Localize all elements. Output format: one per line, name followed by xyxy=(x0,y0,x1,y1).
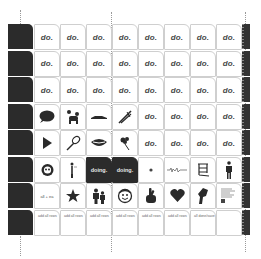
board-cell-empty[interactable] xyxy=(216,210,242,236)
row-tab[interactable] xyxy=(8,183,33,208)
panda-icon xyxy=(40,162,55,177)
cell-label: do. xyxy=(145,33,158,42)
board-cell[interactable]: do. xyxy=(86,51,112,77)
board-cell[interactable] xyxy=(190,183,216,209)
board-cell[interactable] xyxy=(138,183,164,209)
cell-label: do. xyxy=(171,59,184,68)
row-tab[interactable] xyxy=(8,157,33,182)
board-cell[interactable]: do. xyxy=(216,77,242,103)
board-cell[interactable]: do. xyxy=(216,130,242,156)
board-cell[interactable] xyxy=(60,104,86,130)
board-cell[interactable]: do. xyxy=(34,77,60,103)
board-cell[interactable] xyxy=(60,157,86,183)
board-cell[interactable]: add all rows xyxy=(86,210,112,236)
cell-label: do. xyxy=(223,112,236,121)
board-cell[interactable] xyxy=(138,157,164,183)
board-cell[interactable]: do. xyxy=(190,130,216,156)
cell-label-doing: doing. xyxy=(91,167,108,173)
board-cell[interactable] xyxy=(164,183,190,209)
board-cell[interactable]: do. xyxy=(190,51,216,77)
cell-label: do. xyxy=(197,139,210,148)
bouquet-icon xyxy=(117,135,133,151)
board-cell[interactable]: all + ea xyxy=(34,183,60,209)
cell-label: do. xyxy=(171,33,184,42)
cell-caption: add all rows xyxy=(90,214,109,218)
board-cell[interactable] xyxy=(190,157,216,183)
whisk-icon xyxy=(65,135,81,151)
play-icon xyxy=(42,137,52,149)
board-cell[interactable]: doing. xyxy=(112,157,138,183)
board-cell[interactable]: do. xyxy=(138,77,164,103)
board-cell[interactable]: do. xyxy=(138,51,164,77)
board-cell[interactable]: do. xyxy=(190,24,216,50)
board-cell[interactable] xyxy=(60,183,86,209)
cell-label: do. xyxy=(145,112,158,121)
board-cell[interactable]: do. xyxy=(138,104,164,130)
cell-label: do. xyxy=(41,33,54,42)
cell-label: do. xyxy=(67,86,80,95)
board-cell[interactable]: do. xyxy=(164,104,190,130)
board-cell[interactable] xyxy=(34,157,60,183)
board-cell[interactable]: do. xyxy=(190,77,216,103)
board-cell[interactable]: add all rows xyxy=(112,210,138,236)
board-cell[interactable]: do. xyxy=(216,51,242,77)
board-cell[interactable]: add all rows xyxy=(34,210,60,236)
row-edge-strip xyxy=(242,157,250,182)
row-tab[interactable] xyxy=(8,51,33,76)
board-cell[interactable]: do. xyxy=(34,24,60,50)
board-cell[interactable]: do. xyxy=(164,24,190,50)
row-tab[interactable] xyxy=(8,130,33,155)
board-cell[interactable] xyxy=(86,104,112,130)
row-edge-strip xyxy=(242,210,250,235)
board-cell[interactable] xyxy=(34,130,60,156)
board-cell[interactable]: do. xyxy=(112,24,138,50)
board-cell[interactable]: do. xyxy=(164,130,190,156)
board-cell[interactable] xyxy=(216,157,242,183)
board-cell[interactable] xyxy=(216,183,242,209)
board-cell[interactable]: do. xyxy=(164,51,190,77)
board-cell[interactable] xyxy=(112,130,138,156)
board-cell[interactable]: do. xyxy=(86,24,112,50)
row-edge-strip xyxy=(242,51,250,76)
board-cell[interactable]: do. xyxy=(86,77,112,103)
board-cell[interactable]: do. xyxy=(60,24,86,50)
board-cell[interactable] xyxy=(112,183,138,209)
board-cell[interactable]: do. xyxy=(112,77,138,103)
row-tab[interactable] xyxy=(8,210,33,235)
board-cell[interactable] xyxy=(164,157,190,183)
row-tab[interactable] xyxy=(8,77,33,102)
board-cell[interactable]: do. xyxy=(138,130,164,156)
cell-label: do. xyxy=(93,59,106,68)
board-cell[interactable]: do. xyxy=(216,24,242,50)
board-cell[interactable]: do. xyxy=(112,51,138,77)
cell-caption: all done/save xyxy=(194,214,215,218)
board-cell[interactable]: add all rows xyxy=(138,210,164,236)
board-cell[interactable] xyxy=(86,130,112,156)
cell-label: do. xyxy=(171,112,184,121)
board-cell[interactable]: do. xyxy=(190,104,216,130)
cell-label: do. xyxy=(93,86,106,95)
row-edge-strip xyxy=(242,183,250,208)
board-cell[interactable]: all done/save xyxy=(190,210,216,236)
board-cell[interactable]: do. xyxy=(60,77,86,103)
board-cell[interactable] xyxy=(34,104,60,130)
board-cell[interactable]: do. xyxy=(216,104,242,130)
cell-label: do. xyxy=(41,59,54,68)
dot-icon xyxy=(148,167,154,173)
board-cell[interactable] xyxy=(112,104,138,130)
board-cell[interactable] xyxy=(60,130,86,156)
cell-label: do. xyxy=(67,59,80,68)
board-cell[interactable] xyxy=(86,183,112,209)
board-cell[interactable]: do. xyxy=(60,51,86,77)
board-cell[interactable]: add all rows xyxy=(60,210,86,236)
cell-label: do. xyxy=(93,33,106,42)
row-tab[interactable] xyxy=(8,24,33,49)
board-cell[interactable]: do. xyxy=(138,24,164,50)
cell-label-doing: doing. xyxy=(117,167,134,173)
row-tab[interactable] xyxy=(8,104,33,129)
board-cell[interactable]: doing. xyxy=(86,157,112,183)
board-cell[interactable]: add all rows xyxy=(164,210,190,236)
board-cell[interactable]: do. xyxy=(164,77,190,103)
lips-icon xyxy=(90,138,108,148)
board-cell[interactable]: do. xyxy=(34,51,60,77)
